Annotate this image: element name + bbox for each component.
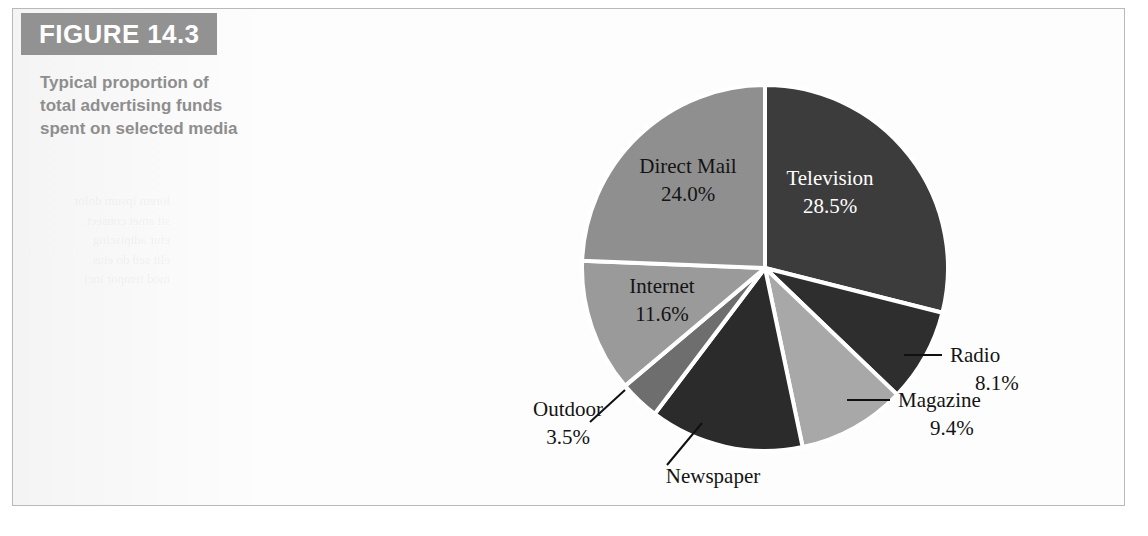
slice-label-direct-mail-name: Direct Mail [639, 154, 737, 178]
slice-label-outdoor-name: Outdoor [533, 397, 603, 421]
slice-label-direct-mail-value: 24.0% [661, 182, 715, 206]
slice-label-television-name: Television [786, 166, 874, 190]
figure-caption: Typical proportion of total advertising … [40, 72, 240, 141]
slice-label-magazine-name: Magazine [898, 388, 981, 412]
pie-chart-svg: Television 28.5% Direct Mail 24.0% Inter… [470, 10, 1110, 490]
slice-label-radio-value: 8.1% [975, 371, 1019, 395]
slice-label-newspaper-name: Newspaper [666, 464, 760, 488]
figure-number-banner: FIGURE 14.3 [21, 13, 217, 55]
pie-chart: Television 28.5% Direct Mail 24.0% Inter… [470, 10, 1110, 490]
slice-label-internet-value: 11.6% [635, 302, 688, 326]
slice-label-internet-name: Internet [629, 274, 694, 298]
slice-label-outdoor-value: 3.5% [546, 425, 590, 449]
slice-label-radio-name: Radio [950, 343, 1000, 367]
figure-number-label: FIGURE 14.3 [39, 19, 199, 50]
slice-label-magazine-value: 9.4% [930, 416, 974, 440]
pie-slice-group [582, 85, 948, 451]
slice-label-television-value: 28.5% [803, 194, 857, 218]
